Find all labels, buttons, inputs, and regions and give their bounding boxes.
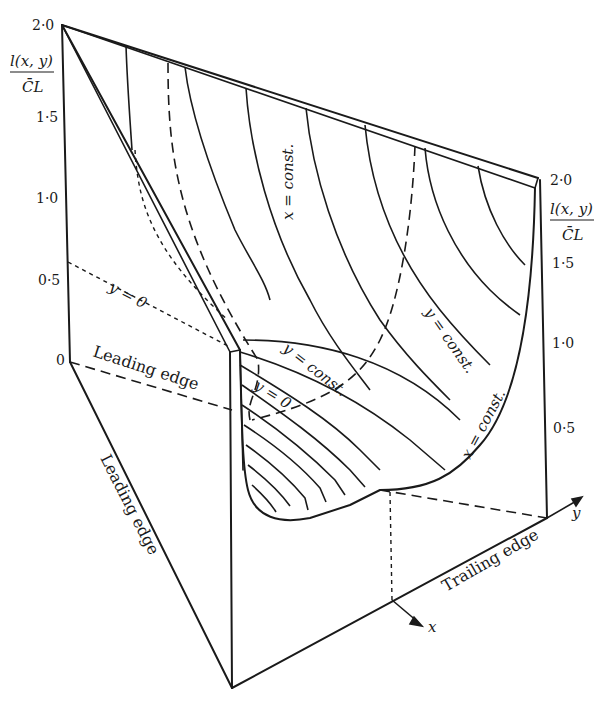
- y-zero-left-label: y = 0: [105, 277, 150, 312]
- x-const-right-label: x = const.: [458, 386, 510, 462]
- left-axis-label-denominator: C̄L: [22, 78, 43, 96]
- trailing-edge-label: Trailing edge: [439, 525, 542, 596]
- right-tick-1-0: 1·0: [552, 335, 574, 351]
- leading-edge-side-label: Leading edge: [96, 451, 163, 558]
- left-axis-label-numerator: l(x, y): [10, 52, 53, 70]
- left-tick-1-5: 1·5: [36, 109, 58, 125]
- left-tick-1-0: 1·0: [36, 190, 58, 206]
- y-axis-label: y: [571, 504, 581, 522]
- left-tick-0-5: 0·5: [38, 272, 60, 288]
- lift-surface-diagram: 2·0 1·5 1·0 0·5 0 l(x, y) C̄L 2·0 1·5 1·…: [0, 0, 612, 703]
- drop-line-dotted: [390, 492, 392, 600]
- y-const-contours: [240, 340, 460, 512]
- x-const-upper-label: x = const.: [279, 144, 297, 220]
- leading-edge-top-label: Leading edge: [91, 342, 202, 394]
- left-vertical-axis: [62, 25, 70, 362]
- y-const-right-label: y = const.: [420, 303, 479, 377]
- x-axis-label: x: [428, 618, 437, 636]
- right-axis-label-denominator: C̄L: [562, 226, 583, 244]
- center-vertical-edge: [230, 352, 232, 688]
- right-axis-label-numerator: l(x, y): [550, 200, 593, 218]
- right-tick-1-5: 1·5: [552, 255, 574, 271]
- left-tick-0: 0: [56, 352, 65, 368]
- left-tick-2-0: 2·0: [32, 17, 54, 33]
- base-right-dashed: [380, 490, 547, 518]
- right-tick-0-5: 0·5: [553, 420, 575, 436]
- right-vertical-axis: [540, 180, 547, 518]
- y-zero-dotted: [68, 262, 228, 346]
- right-tick-2-0: 2·0: [550, 172, 572, 188]
